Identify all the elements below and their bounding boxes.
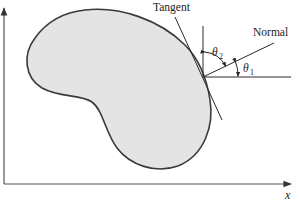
theta2-label: θ 2 <box>212 46 223 61</box>
normal-label: Normal <box>253 26 288 38</box>
x-axis-label: x <box>284 188 291 202</box>
svg-text:2: 2 <box>219 52 223 61</box>
theta1-label: θ 1 <box>243 62 254 77</box>
svg-text:1: 1 <box>250 68 254 77</box>
svg-text:θ: θ <box>243 62 249 74</box>
diagram-canvas: x Tangent Normal θ 2 θ 1 <box>0 0 299 204</box>
svg-text:θ: θ <box>212 46 218 58</box>
tangent-label: Tangent <box>153 1 191 14</box>
kidney-shaped-body <box>27 9 211 169</box>
theta1-angle-arc <box>236 62 239 76</box>
